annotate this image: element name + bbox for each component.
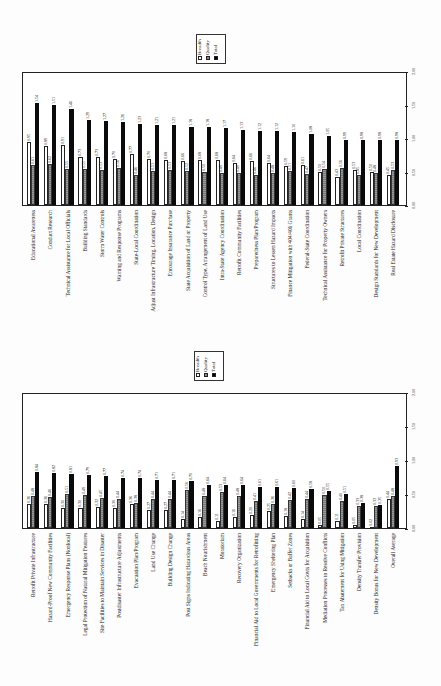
y-tick-mark [405,529,408,530]
bar-value-label: 0.44 [116,491,120,498]
category-label: Land Use Change [150,533,156,572]
bar-total [87,475,91,528]
bar-value-label: 0.27 [147,502,151,509]
legend-item-quality: Quality [203,357,208,377]
bar-value-label: 0.70 [189,473,193,480]
legend-label-breadth: Breadth [195,356,200,372]
category-label: Density Transfer Provision [356,533,362,591]
category-label: Overall Average [390,533,396,568]
y-tick-label: 1.00 [411,457,416,464]
bottom-bar-chart: BreadthQualityTotal0.000.501.001.502.000… [0,0,441,686]
bar-value-label: 0.18 [284,508,288,515]
category-label: Moratorium [219,533,225,559]
scanned-page: BreadthQualityTotal0.000.501.001.502.000… [0,0,441,686]
legend-label-total: Total [211,362,216,372]
bar-value-label: 0.36 [44,496,48,503]
bar-total [172,480,176,528]
legend-item-breadth: Breadth [195,356,200,377]
bar-value-label: 0.45 [99,490,103,497]
category-label: Density Bonus for New Development [373,533,379,614]
bar-value-label: 0.51 [343,486,347,493]
bar-value-label: 0.05 [352,517,356,524]
bar-total [69,474,73,528]
bar-value-label: 0.48 [236,488,240,495]
bar-value-label: 0.79 [86,467,90,474]
bar-value-label: 0.14 [301,511,305,518]
legend-swatch-quality [204,373,208,377]
bar-value-label: 0.84 [35,464,39,471]
bar-value-label: 0.44 [168,491,172,498]
y-tick-label: 0.50 [411,491,416,498]
bar-total [258,487,262,528]
bar-total [292,488,296,528]
category-label: Emergency Response Plans (Nonlocal) [65,533,71,617]
bar-value-label: 0.71 [155,472,159,479]
y-tick-mark [405,461,408,462]
bar-value-label: 0.27 [164,502,168,509]
bar-value-label: 0.58 [309,481,313,488]
bar-value-label: 0.74 [138,470,142,477]
bar-total [241,485,245,528]
bar-total [121,478,125,528]
legend-item-total: Total [211,362,216,377]
bar-value-label: 0.81 [69,466,73,473]
bar-total [395,466,399,528]
bar-value-label: 0.16 [198,509,202,516]
bar-value-label: 0.71 [172,472,176,479]
bar-value-label: 0.11 [335,513,339,520]
bar-value-label: 0.93 [395,458,399,465]
y-tick-mark [405,393,408,394]
bar-value-label: 0.48 [391,488,395,495]
bar-value-label: 0.30 [112,500,116,507]
category-label: Building Design Change [167,533,173,586]
category-label: Beach Nourishment [202,533,208,576]
bar-value-label: 0.48 [202,488,206,495]
bar-value-label: 0.74 [121,470,125,477]
bar-value-label: 0.44 [151,491,155,498]
bar-total [378,505,382,528]
bar-value-label: 0.53 [219,484,223,491]
bar-total [224,485,228,528]
bar-value-label: 0.20 [249,507,253,514]
bar-value-label: 0.49 [82,487,86,494]
bar-value-label: 0.38 [360,495,364,502]
bar-value-label: 0.64 [206,477,210,484]
bar-value-label: 0.25 [267,503,271,510]
bar-value-label: 0.30 [78,500,82,507]
bar-value-label: 0.36 [271,496,275,503]
bar-value-label: 0.64 [240,477,244,484]
category-label: Retrofit Private Infrastructure [30,533,36,597]
category-label: Postdisaster Infrastructure Adjustments [116,533,122,618]
category-label: Post Signs Indicating Hazardous Areas [185,533,191,617]
bar-value-label: 0.14 [181,511,185,518]
category-label: Evacuation Plan/Program [133,533,139,588]
category-label: Hazard-Proof New Community Facilities [47,533,53,622]
bar-total [138,478,142,528]
bar-value-label: 0.38 [134,495,138,502]
legend-swatch-breadth [196,373,200,377]
category-label: Emergency Sheltering Plan [270,533,276,592]
y-tick-label: 1.50 [411,423,416,430]
legend-swatch-total [212,373,216,377]
bar-value-label: 0.40 [339,493,343,500]
bar-value-label: 0.44 [305,491,309,498]
category-label: Legal Protection of Natural Mitigation F… [82,533,88,636]
bar-value-label: 0.36 [27,496,31,503]
bar-total [155,480,159,528]
category-label: Tax Abatement for Using Mitigation [339,533,345,612]
bar-total [104,476,108,528]
bar-value-label: 0.46 [48,489,52,496]
bar-value-label: 0.61 [275,479,279,486]
bar-value-label: 0.42 [288,492,292,499]
legend-label-quality: Quality [203,357,208,372]
chart-legend: BreadthQualityTotal [194,351,224,381]
bar-value-label: 0.48 [31,488,35,495]
bar-value-label: 0.51 [65,486,69,493]
category-label: Recovery Organization [236,533,242,583]
bar-value-label: 0.32 [95,499,99,506]
bar-value-label: 0.35 [378,497,382,504]
bar-value-label: 0.56 [185,482,189,489]
category-label: Financial Aid to Local Governments for R… [253,533,259,646]
bar-total [344,494,348,528]
bar-total [35,472,39,528]
